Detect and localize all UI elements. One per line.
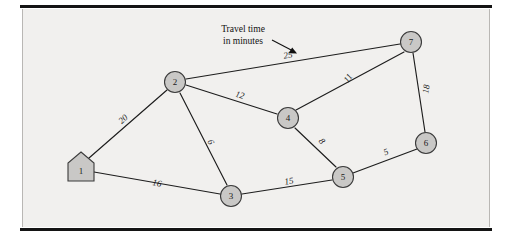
node-6[interactable]: 6 [416, 133, 437, 154]
annotation-line-1: Travel time [221, 24, 265, 34]
node-4-label: 4 [286, 113, 291, 123]
node-7-label: 7 [409, 37, 414, 47]
node-2[interactable]: 2 [165, 72, 186, 93]
node-6-label: 6 [424, 138, 429, 148]
node-3-label: 3 [229, 191, 234, 201]
node-3[interactable]: 3 [221, 186, 242, 207]
node-4[interactable]: 4 [278, 108, 299, 129]
annotation-line-2: in minutes [223, 36, 263, 46]
network-diagram-figure: 20 16 6 12 25 11 8 15 5 18 1 2 3 4 [0, 0, 511, 238]
node-7[interactable]: 7 [401, 32, 422, 53]
node-5-label: 5 [341, 172, 346, 182]
node-2-label: 2 [173, 77, 178, 87]
node-5[interactable]: 5 [333, 167, 354, 188]
node-1-label: 1 [79, 166, 84, 176]
